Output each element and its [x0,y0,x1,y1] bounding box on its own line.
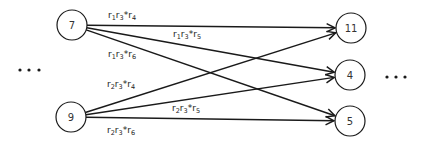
node-label: 4 [347,70,353,81]
dot-icon [403,75,406,78]
node-11: 11 [336,13,366,43]
flow-diagram: r1r3*r4r1r3*r5r1r3*r6r2r3*r4r2r3*r5r2r3*… [0,0,426,143]
node-label: 11 [345,23,358,34]
dot-icon [27,68,30,71]
edge-label-7-to-11: r1r3*r4 [108,10,136,22]
node-label: 9 [68,112,74,123]
dot-icon [37,68,40,71]
edge-label-7-to-4: r1r3*r5 [173,29,201,41]
node-7: 7 [57,10,87,40]
edge-label-9-to-5: r2r3*r6 [107,125,135,137]
node-label: 7 [69,20,75,31]
dot-icon [394,75,397,78]
edge-label-9-to-4: r2r3*r5 [172,103,200,115]
edge-label-9-to-11: r2r3*r4 [107,79,135,91]
edge-7-to-11 [87,25,335,28]
node-9: 9 [56,102,86,132]
right-ellipsis [385,75,406,78]
node-4: 4 [335,60,365,90]
edge-label-7-to-5: r1r3*r6 [108,49,136,61]
left-ellipsis [18,68,40,71]
edges-group [85,25,335,121]
node-label: 5 [347,116,353,127]
edge-9-to-5 [86,117,334,121]
dot-icon [18,68,21,71]
edge-9-to-11 [85,33,335,113]
dot-icon [385,75,388,78]
node-5: 5 [335,106,365,136]
